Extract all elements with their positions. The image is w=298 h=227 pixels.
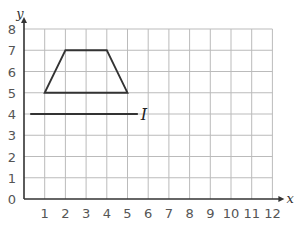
y-tick-label: 5 <box>8 86 16 101</box>
y-tick-label: 4 <box>8 107 16 122</box>
x-tick-label: 7 <box>165 206 173 221</box>
x-tick-label: 6 <box>144 206 152 221</box>
y-tick-label: 1 <box>8 171 16 186</box>
x-tick-label: 8 <box>185 206 193 221</box>
y-tick-label: 7 <box>8 43 16 58</box>
x-tick-label: 1 <box>41 206 49 221</box>
x-tick-label: 11 <box>243 206 260 221</box>
y-tick-label: 3 <box>8 128 16 143</box>
x-tick-label: 2 <box>61 206 69 221</box>
y-tick-label: 6 <box>8 65 16 80</box>
y-tick-label: 8 <box>8 22 16 37</box>
x-tick-label: 9 <box>206 206 214 221</box>
y-tick-label: 0 <box>8 192 16 207</box>
mirror-line-label: I <box>140 105 148 124</box>
y-tick-label: 2 <box>8 150 16 165</box>
x-tick-label: 5 <box>123 206 131 221</box>
coordinate-grid-diagram: 123456789101112012345678xyI <box>0 0 298 227</box>
x-tick-label: 3 <box>82 206 90 221</box>
x-tick-label: 12 <box>264 206 281 221</box>
x-tick-label: 4 <box>103 206 111 221</box>
x-tick-label: 10 <box>223 206 240 221</box>
x-axis-arrow-icon <box>278 196 284 202</box>
y-axis-label: y <box>15 6 24 21</box>
x-axis-label: x <box>286 191 294 206</box>
grid-svg: 123456789101112012345678xyI <box>0 0 298 227</box>
